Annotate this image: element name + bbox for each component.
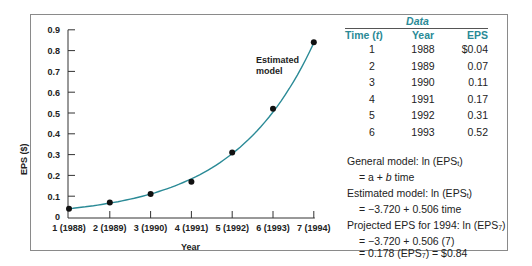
y-tick-label: 0.7 xyxy=(47,67,60,77)
data-panel: Data Time (t) Year EPS 11988$0.04219890.… xyxy=(345,14,490,28)
cell-time: 3 xyxy=(345,74,399,91)
x-axis-label: Year xyxy=(181,242,200,252)
table-row: 219890.07 xyxy=(345,58,488,75)
y-axis-label: EPS ($) xyxy=(19,143,29,175)
x-tick-label: 4 (1991) xyxy=(175,223,209,233)
cell-eps: 0.17 xyxy=(447,91,488,108)
cell-year: 1989 xyxy=(399,58,447,75)
cell-time: 2 xyxy=(345,58,399,75)
data-point xyxy=(188,179,194,185)
cell-time: 1 xyxy=(345,41,399,58)
cell-eps: 0.11 xyxy=(447,74,488,91)
cell-year: 1991 xyxy=(399,91,447,108)
cell-time: 6 xyxy=(345,124,399,141)
y-tick-label: 0.3 xyxy=(47,150,60,160)
x-tick-label: 5 (1992) xyxy=(215,223,249,233)
y-tick-label: 0 xyxy=(55,212,60,222)
header-eps: EPS xyxy=(447,29,488,41)
data-table: Time (t) Year EPS 11988$0.04219890.07319… xyxy=(345,29,488,140)
data-panel-title: Data xyxy=(345,14,490,28)
data-point xyxy=(311,39,317,45)
annotation-line-1: Estimated xyxy=(256,55,299,66)
table-row: 11988$0.04 xyxy=(345,41,488,58)
header-year: Year xyxy=(399,29,447,41)
y-tick-label: 0.9 xyxy=(47,25,60,35)
cell-year: 1990 xyxy=(399,74,447,91)
cell-eps: 0.52 xyxy=(447,124,488,141)
x-tick-label: 1 (1988) xyxy=(52,223,86,233)
table-row: 619930.52 xyxy=(345,124,488,141)
estimated-model-annotation: Estimated model xyxy=(256,55,299,76)
model-equations: General model: ln (EPSt) = a + b time Es… xyxy=(347,155,506,266)
header-time: Time (t) xyxy=(345,29,399,41)
projected-eps: Projected EPS for 1994: ln (EPS7) = −3.7… xyxy=(347,219,506,263)
cell-eps: $0.04 xyxy=(447,41,488,58)
x-tick-label: 6 (1993) xyxy=(256,223,290,233)
data-point xyxy=(148,191,154,197)
cell-year: 1988 xyxy=(399,41,447,58)
cell-year: 1992 xyxy=(399,107,447,124)
cell-year: 1993 xyxy=(399,124,447,141)
table-row: 319900.11 xyxy=(345,74,488,91)
table-header-row: Time (t) Year EPS xyxy=(345,29,488,41)
cell-time: 4 xyxy=(345,91,399,108)
cell-eps: 0.31 xyxy=(447,107,488,124)
y-tick-label: 0.5 xyxy=(47,109,60,119)
x-tick-label: 2 (1989) xyxy=(93,223,127,233)
data-point xyxy=(107,199,113,205)
y-tick-label: 0.6 xyxy=(47,88,60,98)
general-model: General model: ln (EPSt) = a + b time xyxy=(347,155,506,183)
y-tick-label: 0.8 xyxy=(47,46,60,56)
cell-eps: 0.07 xyxy=(447,58,488,75)
x-tick-label: 3 (1990) xyxy=(134,223,168,233)
y-tick-label: 0.1 xyxy=(47,192,60,202)
y-tick-label: 0.4 xyxy=(47,129,60,139)
annotation-line-2: model xyxy=(256,66,299,77)
x-tick-label: 7 (1994) xyxy=(297,223,331,233)
cell-time: 5 xyxy=(345,107,399,124)
data-point xyxy=(270,106,276,112)
data-point xyxy=(229,150,235,156)
table-row: 419910.17 xyxy=(345,91,488,108)
y-tick-label: 0.2 xyxy=(47,171,60,181)
data-point xyxy=(66,206,72,212)
table-row: 519920.31 xyxy=(345,107,488,124)
estimated-model: Estimated model: ln (EPSt) = −3.720 + 0.… xyxy=(347,187,506,215)
